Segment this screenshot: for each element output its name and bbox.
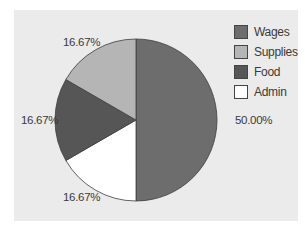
slice-label-supplies: 16.67% [63,36,100,48]
legend-item-food: Food [234,65,304,81]
pie-slice-wages [136,39,217,201]
legend-label-wages: Wages [254,25,289,39]
chart-panel: 50.00% 16.67% 16.67% 16.67% Wages Suppli… [14,10,298,221]
slice-label-admin: 16.67% [63,191,100,203]
legend-item-wages: Wages [234,25,304,41]
pie-slices [55,39,217,201]
legend-swatch-food [234,65,248,79]
legend-swatch-admin [234,85,248,99]
legend-label-supplies: Supplies [254,45,298,59]
legend-swatch-wages [234,25,248,39]
legend-item-supplies: Supplies [234,45,304,61]
slice-label-wages: 50.00% [235,114,272,126]
legend-label-food: Food [254,65,280,79]
slice-label-food: 16.67% [21,114,58,126]
legend-swatch-supplies [234,45,248,59]
legend-item-admin: Admin [234,85,304,101]
legend-label-admin: Admin [254,85,287,99]
